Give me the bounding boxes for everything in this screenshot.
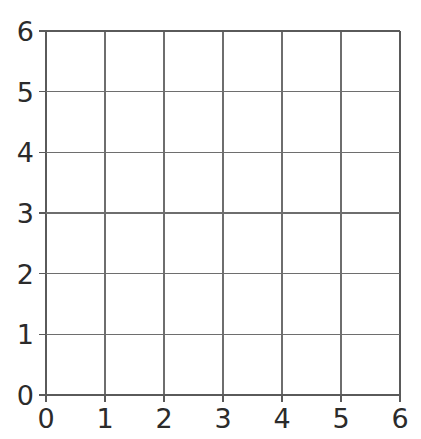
x-tick-label-3: 3 [214,405,231,432]
y-tick-label-3: 3 [17,200,34,227]
x-tick-label-4: 4 [273,405,290,432]
chart-figure: — 0123456 0123456 [0,0,421,439]
coordinate-grid [0,0,421,439]
y-tick-label-5: 5 [17,78,34,105]
tick-marks-group [39,31,400,402]
y-tick-label-0: 0 [17,382,34,409]
y-tick-label-6: 6 [17,18,34,45]
y-tick-label-1: 1 [17,321,34,348]
x-tick-label-2: 2 [155,405,172,432]
x-tick-label-0: 0 [37,405,54,432]
x-tick-label-6: 6 [391,405,408,432]
x-tick-label-1: 1 [96,405,113,432]
grid-lines-group [46,31,400,395]
y-tick-label-2: 2 [17,260,34,287]
x-tick-label-5: 5 [332,405,349,432]
y-tick-label-4: 4 [17,139,34,166]
